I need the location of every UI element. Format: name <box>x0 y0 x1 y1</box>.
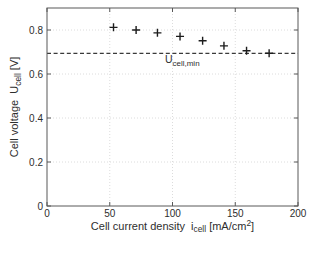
y-tick-label: 0.4 <box>29 113 43 124</box>
label-segment: cell,min <box>173 59 200 68</box>
label-segment: [mA/cm <box>206 220 246 232</box>
label-segment: cell <box>13 73 23 86</box>
label-segment: ] <box>251 220 254 232</box>
label-segment: cell <box>194 224 207 234</box>
y-tick-label: 0.2 <box>29 157 43 168</box>
x-tick-label: 200 <box>290 208 307 219</box>
x-tick-label: 150 <box>227 208 244 219</box>
y-tick-label: 0.8 <box>29 25 43 36</box>
label-segment: [V] <box>8 57 20 74</box>
x-tick-label: 100 <box>164 208 181 219</box>
y-tick-label: 0 <box>37 201 43 212</box>
y-tick-label: 0.6 <box>29 69 43 80</box>
label-segment: Cell voltage U <box>8 86 20 158</box>
polarization-curve-figure: 05010015020000.20.40.60.8Ucell,minCell c… <box>0 0 321 254</box>
x-tick-label: 0 <box>44 208 50 219</box>
chart-canvas: 05010015020000.20.40.60.8Ucell,minCell c… <box>0 0 321 254</box>
label-segment: U <box>165 53 173 65</box>
label-segment: Cell current density i <box>91 220 194 232</box>
x-tick-label: 50 <box>104 208 116 219</box>
